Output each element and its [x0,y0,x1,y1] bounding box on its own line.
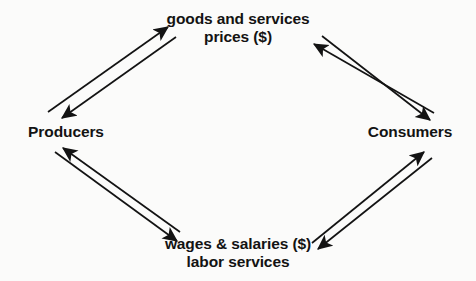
circular-flow-diagram: goods and services prices ($) Producers … [0,0,476,281]
node-consumers-label: Consumers [368,123,452,140]
node-producers-label: Producers [28,123,104,140]
arrow-wages-to-producers [63,148,180,232]
node-goods-line-2: prices ($) [0,28,476,46]
arrow-consumers-to-goods [314,44,434,113]
arrow-goods-to-producers [62,37,176,118]
node-consumers: Consumers [348,123,472,141]
node-wages-and-labor: wages & salaries ($) labor services [0,235,476,270]
arrow-goods-to-consumers [322,36,430,120]
arrow-producers-to-wages [55,152,177,241]
node-producers: Producers [4,123,128,141]
node-goods-and-services: goods and services prices ($) [0,10,476,45]
node-wages-line-1: wages & salaries ($) [165,235,311,252]
node-wages-line-2: labor services [0,253,476,271]
node-goods-line-1: goods and services [167,10,310,27]
arrow-wages-to-consumers [312,152,424,243]
